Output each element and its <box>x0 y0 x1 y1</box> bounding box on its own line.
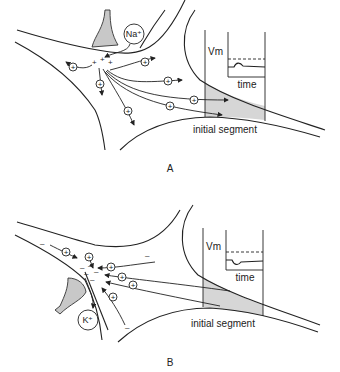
negative-charge: – <box>90 275 95 284</box>
synaptic-current-diagram: Na⁺ + + + + + + + + + + Vm <box>0 0 340 372</box>
na-ion-label: Na⁺ <box>126 29 143 39</box>
svg-text:+: + <box>166 77 171 86</box>
svg-text:+: + <box>192 96 197 105</box>
panel-label-b: B <box>167 357 174 368</box>
svg-text:+: + <box>98 80 103 89</box>
epsp-trace <box>228 63 265 67</box>
negative-charge: – <box>40 239 45 248</box>
ipsp-trace <box>226 260 263 264</box>
svg-text:+: + <box>87 253 92 262</box>
svg-text:+: + <box>168 102 173 111</box>
time-axis-label: time <box>238 79 257 90</box>
vm-trace-inset-a: Vm time <box>208 32 265 90</box>
negative-charge: – <box>145 251 150 260</box>
svg-text:+: + <box>64 248 69 257</box>
curved-inner-arc <box>140 10 165 48</box>
vm-trace-inset-b: Vm time <box>206 230 263 283</box>
svg-text:+: + <box>143 58 148 67</box>
time-axis-label: time <box>236 272 255 283</box>
svg-text:+: + <box>109 263 114 272</box>
svg-text:+: + <box>131 281 136 290</box>
k-ion-label: K⁺ <box>82 315 93 325</box>
svg-text:+: + <box>71 63 76 72</box>
vm-axis-label: Vm <box>208 46 223 57</box>
plus-charge: + <box>100 55 105 64</box>
initial-segment-label: initial segment <box>191 318 255 329</box>
vm-axis-label: Vm <box>206 241 221 252</box>
plus-charge: + <box>108 58 113 67</box>
presynaptic-terminal <box>55 278 86 314</box>
negative-charge: – <box>125 323 130 332</box>
plus-charge: + <box>92 58 97 67</box>
svg-text:+: + <box>120 273 125 282</box>
initial-segment-label: initial segment <box>193 124 257 135</box>
panel-label-a: A <box>167 163 174 174</box>
presynaptic-terminal <box>92 10 118 47</box>
negative-charge: – <box>84 269 89 278</box>
current-arrow-inward <box>98 262 155 268</box>
svg-text:+: + <box>126 107 131 116</box>
panel-a: Na⁺ + + + + + + + + + + Vm <box>15 0 325 174</box>
svg-text:+: + <box>111 293 116 302</box>
panel-b: K⁺ – – – – – – – – + + + + + + Vm <box>15 205 320 368</box>
